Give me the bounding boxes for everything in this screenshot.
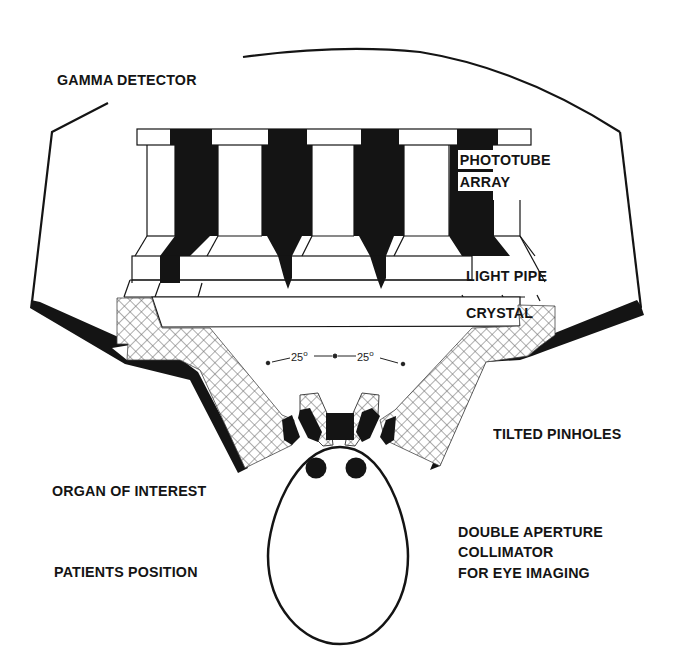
label-phototube-line1: PHOTOTUBE: [458, 150, 553, 169]
patient-head: [268, 447, 408, 644]
label-collimator-line2: COLLIMATOR: [458, 542, 554, 561]
diagram-stage: GAMMA DETECTOR PHOTOTUBE ARRAY LIGHT PIP…: [0, 0, 678, 646]
label-gamma-detector: GAMMA DETECTOR: [57, 70, 197, 89]
detector-housing: [30, 49, 644, 473]
detector-diagram: [0, 0, 678, 646]
angle-markers: [266, 354, 405, 366]
tilted-pinholes: [282, 393, 396, 446]
label-collimator-line3: FOR EYE IMAGING: [458, 563, 590, 582]
right-eye: [346, 458, 367, 479]
label-light-pipe: LIGHT PIPE: [466, 266, 547, 285]
label-organ-of-interest: ORGAN OF INTEREST: [52, 481, 206, 500]
label-patients-position: PATIENTS POSITION: [54, 562, 198, 581]
label-phototube-line2: ARRAY: [458, 172, 512, 191]
label-collimator-line1: DOUBLE APERTURE: [458, 522, 603, 541]
left-eye: [306, 458, 327, 479]
angle-label-right: 25o: [357, 349, 374, 363]
angle-label-left: 25o: [291, 349, 308, 363]
label-crystal: CRYSTAL: [466, 303, 533, 322]
label-tilted-pinholes: TILTED PINHOLES: [493, 424, 621, 443]
crystal: [152, 297, 520, 327]
